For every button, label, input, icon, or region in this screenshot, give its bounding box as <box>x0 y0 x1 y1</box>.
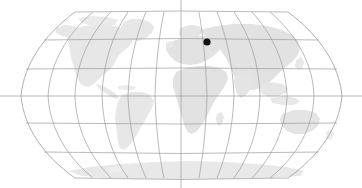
parallel-90n <box>75 11 288 12</box>
land-australia <box>280 110 320 134</box>
location-marker-dot[interactable] <box>203 38 210 45</box>
marker-layer[interactable] <box>203 38 210 45</box>
parallel-30n <box>26 68 337 69</box>
land-japan <box>295 57 304 70</box>
land-central-america <box>96 84 119 99</box>
land-india <box>234 74 255 98</box>
world-locator-map <box>0 0 362 188</box>
meridian-180e-outline <box>288 12 342 178</box>
landmass-layer <box>56 16 334 179</box>
map-canvas[interactable] <box>0 0 362 188</box>
parallel-60s <box>44 152 319 154</box>
land-south-america <box>115 92 154 150</box>
land-indonesia <box>270 96 300 105</box>
meridian-30w <box>155 12 164 178</box>
land-caribbean <box>118 85 136 90</box>
land-southeast-asia <box>259 82 288 97</box>
